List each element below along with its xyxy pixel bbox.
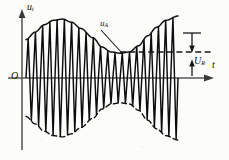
envelope-label: uA	[100, 19, 108, 29]
y-axis-label: ut	[27, 2, 34, 12]
amplitude-arrow-upper	[183, 33, 201, 52]
y-axis	[19, 9, 26, 150]
envelope-leader-line	[101, 30, 122, 53]
x-axis-label: t	[212, 60, 215, 70]
origin-label: O	[11, 71, 18, 81]
x-axis	[8, 75, 214, 82]
am-waveform-figure	[0, 0, 229, 160]
amplitude-label: UR	[194, 56, 205, 66]
